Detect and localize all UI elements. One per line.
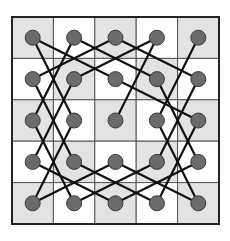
square-node <box>149 154 164 169</box>
square-node <box>25 196 40 211</box>
square-node <box>25 72 40 87</box>
square-node <box>25 30 40 45</box>
knight-tour-board <box>0 0 230 241</box>
square-node <box>67 154 82 169</box>
square-node <box>149 72 164 87</box>
square-node <box>108 154 123 169</box>
square-node <box>67 30 82 45</box>
square-node <box>191 72 206 87</box>
square-node <box>191 113 206 128</box>
square-node <box>191 196 206 211</box>
square-node <box>191 154 206 169</box>
square-node <box>108 72 123 87</box>
square-node <box>149 113 164 128</box>
square-node <box>67 72 82 87</box>
square-node <box>67 113 82 128</box>
square-node <box>108 113 123 128</box>
square-node <box>25 113 40 128</box>
square-node <box>108 196 123 211</box>
square-node <box>25 154 40 169</box>
square-node <box>191 30 206 45</box>
square-node <box>149 196 164 211</box>
square-node <box>67 196 82 211</box>
square-node <box>108 30 123 45</box>
square-node <box>149 30 164 45</box>
